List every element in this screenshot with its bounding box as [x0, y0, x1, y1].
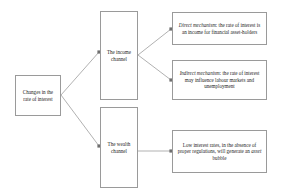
node-income-channel[interactable]: The income channel: [100, 11, 138, 100]
node-label-indirect-mechanism: Indirect mechanism: the rate of interest…: [176, 70, 263, 89]
edge-income-channel-to-indirect-mechanism: [138, 55, 173, 82]
diagram-canvas: Changes in the rate of interest The inco…: [0, 0, 282, 193]
node-asset-bubble[interactable]: Low interest rates, in the absence of pr…: [172, 130, 267, 173]
edge-source-to-wealth-channel: [61, 95, 101, 148]
node-wealth-channel[interactable]: The wealth channel: [100, 107, 138, 188]
node-text-asset-bubble-part1: Low interest rates, in the absence of pr…: [178, 142, 257, 154]
node-indirect-mechanism[interactable]: Indirect mechanism: the rate of interest…: [172, 60, 267, 100]
node-term-asset: asset: [251, 148, 261, 154]
node-text-asset-bubble-part2: bubble: [213, 155, 227, 161]
edge-income-channel-to-direct-mechanism: [138, 27, 173, 55]
node-label-wealth-channel: The wealth channel: [104, 141, 134, 154]
node-direct-mechanism[interactable]: Direct mechanism: the rate of interest i…: [172, 12, 267, 45]
node-changes-in-rate-of-interest[interactable]: Changes in the rate of interest: [15, 75, 61, 116]
node-label-asset-bubble: Low interest rates, in the absence of pr…: [176, 142, 263, 161]
node-label-source: Changes in the rate of interest: [19, 89, 57, 102]
node-term-direct-mechanism: Direct mechanism: [179, 22, 216, 28]
node-label-income-channel: The income channel: [104, 49, 134, 62]
edge-wealth-channel-to-asset-bubble: [138, 149, 173, 152]
node-term-indirect-mechanism: Indirect mechanism: [180, 70, 220, 76]
node-label-direct-mechanism: Direct mechanism: the rate of interest i…: [176, 22, 263, 35]
edge-source-to-income-channel: [61, 50, 101, 95]
